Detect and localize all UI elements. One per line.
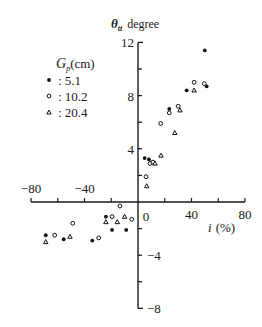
point-filled-circle: [44, 233, 48, 237]
point-open-circle: [144, 175, 148, 179]
point-open-circle: [159, 122, 163, 126]
y-axis-unit: degree: [127, 17, 159, 31]
legend-marker-open-circle: [47, 94, 51, 98]
point-triangle: [144, 184, 148, 188]
point-triangle: [68, 234, 72, 238]
y-tick-label: 4: [128, 142, 135, 157]
point-open-circle: [118, 204, 122, 208]
x-tick-label: −40: [74, 181, 94, 196]
y-axis-subscript: tt: [118, 24, 123, 33]
point-filled-circle: [203, 48, 207, 52]
point-triangle: [44, 240, 48, 244]
point-filled-circle: [110, 228, 114, 232]
point-filled-circle: [147, 158, 151, 162]
x-axis-unit: (%): [216, 220, 236, 235]
legend-title-symbol: G: [56, 56, 66, 71]
point-filled-circle: [143, 156, 147, 160]
legend-title: Gp(cm): [56, 56, 95, 73]
x-tick-label: −80: [21, 181, 41, 196]
point-filled-circle: [185, 88, 189, 92]
x-tick-label: 0: [143, 209, 150, 224]
y-tick-label: 8: [128, 89, 135, 104]
point-open-circle: [53, 233, 57, 237]
point-open-circle: [192, 80, 196, 84]
y-tick-label: −4: [147, 248, 161, 263]
point-open-circle: [167, 111, 171, 115]
point-triangle: [104, 220, 108, 224]
point-triangle: [192, 88, 196, 92]
x-tick-label: 40: [185, 207, 198, 222]
point-filled-circle: [124, 228, 128, 232]
x-axis-symbol: i: [208, 220, 212, 235]
point-triangle: [115, 220, 119, 224]
x-axis-title: i(%): [208, 220, 235, 235]
point-filled-circle: [62, 237, 66, 241]
point-filled-circle: [104, 215, 108, 219]
legend-title-unit: (cm): [70, 56, 95, 71]
scatter-chart: θttdegree Gp(cm) : 5.1 : 10.2 : 20.4 −80…: [0, 0, 262, 327]
legend-label-5-1: : 5.1: [58, 73, 81, 88]
y-tick-label: −8: [147, 301, 161, 316]
legend-marker-filled-circle: [47, 78, 51, 82]
point-filled-circle: [167, 107, 171, 111]
point-triangle: [122, 214, 126, 218]
point-open-circle: [130, 217, 134, 221]
point-open-circle: [110, 215, 114, 219]
y-axis-title: θttdegree: [111, 16, 159, 33]
y-tick-label: 12: [121, 35, 134, 50]
point-triangle: [159, 153, 163, 157]
point-filled-circle: [90, 239, 94, 243]
legend-label-10-2: : 10.2: [58, 89, 88, 104]
point-triangle: [173, 131, 177, 135]
point-open-circle: [202, 82, 206, 86]
x-tick-label: 80: [238, 207, 251, 222]
point-open-circle: [176, 104, 180, 108]
legend: Gp(cm) : 5.1 : 10.2 : 20.4: [47, 56, 95, 120]
tick-labels: −80−40040801284−4−8: [21, 35, 252, 316]
legend-label-20-4: : 20.4: [58, 105, 88, 120]
point-open-circle: [97, 236, 101, 240]
legend-marker-triangle: [47, 110, 51, 114]
point-open-circle: [71, 221, 75, 225]
